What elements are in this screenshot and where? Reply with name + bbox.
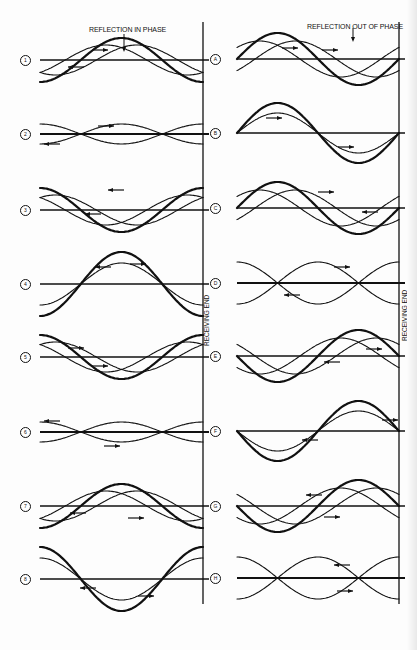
direction-arrow-B-0-head (277, 116, 282, 120)
panel-label-1: 1 (20, 55, 31, 66)
direction-arrow-A-1-head (333, 48, 338, 52)
direction-arrow-H-0-head (334, 563, 339, 567)
direction-arrow-E-0-head (377, 347, 382, 351)
direction-arrow-B-1-head (349, 145, 354, 149)
panel-label-5: 5 (20, 352, 31, 363)
panel-label-A: A (210, 54, 221, 65)
direction-arrow-5-1-head (103, 364, 108, 368)
direction-arrow-C-1-head (362, 210, 367, 214)
direction-arrow-G-0-head (306, 493, 311, 497)
direction-arrow-7-1-head (139, 516, 144, 520)
direction-arrow-C-0-head (329, 190, 334, 194)
title-pointer-right-head (351, 37, 355, 42)
panel-label-4: 4 (20, 279, 31, 290)
direction-arrow-F-0-head (393, 418, 398, 422)
direction-arrow-6-1-head (115, 444, 120, 448)
panel-label-D: D (210, 278, 221, 289)
panel-label-8: 8 (20, 574, 31, 585)
panel-label-F: F (210, 426, 221, 437)
direction-arrow-D-0-head (345, 265, 350, 269)
direction-arrow-D-1-head (284, 293, 289, 297)
page-edge-shadow (407, 0, 417, 650)
direction-arrow-1-0-head (103, 48, 108, 52)
panel-label-G: G (210, 501, 221, 512)
panel-label-B: B (210, 128, 221, 139)
title-reflection-out-of-phase: REFLECTION OUT OF PHASE (307, 23, 403, 30)
panel-label-C: C (210, 203, 221, 214)
panel-label-6: 6 (20, 427, 31, 438)
direction-arrow-8-0-head (80, 586, 85, 590)
panel-label-H: H (210, 573, 221, 584)
receiving-end-label-left: RECEIVING END (203, 295, 210, 346)
direction-arrow-2-1-head (44, 142, 49, 146)
direction-arrow-H-1-head (348, 589, 353, 593)
direction-arrow-8-1-head (149, 594, 154, 598)
title-reflection-in-phase: REFLECTION IN PHASE (89, 26, 166, 33)
direction-arrow-A-0-head (293, 46, 298, 50)
panel-label-2: 2 (20, 129, 31, 140)
direction-arrow-G-1-head (335, 515, 340, 519)
panel-label-7: 7 (20, 501, 31, 512)
panel-label-3: 3 (20, 205, 31, 216)
panel-label-E: E (210, 351, 221, 362)
direction-arrow-3-0-head (108, 188, 113, 192)
